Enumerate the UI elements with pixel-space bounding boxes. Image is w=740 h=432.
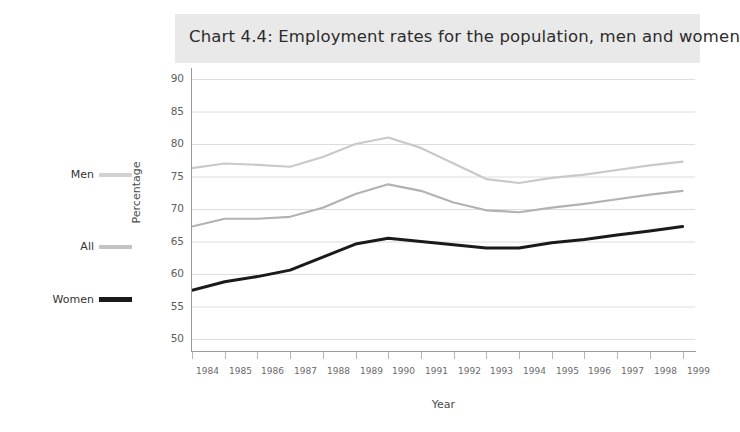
chart-title-band: Chart 4.4: Employment rates for the popu… bbox=[175, 14, 700, 63]
legend-item-men[interactable]: Men bbox=[0, 168, 140, 182]
x-axis-tick-mark bbox=[683, 352, 684, 359]
x-axis-tick-mark bbox=[519, 352, 520, 359]
x-axis-tick-label: 1996 bbox=[588, 366, 611, 376]
chart-legend: Men All Women bbox=[0, 0, 150, 432]
x-axis-tick-label: 1995 bbox=[556, 366, 579, 376]
series-line-all bbox=[192, 184, 683, 226]
y-axis-tick-labels: 505560657075808590 bbox=[148, 0, 184, 432]
data-series-group bbox=[192, 68, 695, 350]
y-axis-tick-label: 70 bbox=[150, 203, 184, 214]
x-axis-tick-mark bbox=[192, 352, 193, 359]
y-axis-title: Percentage bbox=[130, 162, 143, 224]
x-axis-tick-label: 1987 bbox=[294, 366, 317, 376]
x-axis-tick-label: 1988 bbox=[327, 366, 350, 376]
series-line-women bbox=[192, 227, 683, 291]
x-axis-tick-label: 1990 bbox=[392, 366, 415, 376]
legend-item-all[interactable]: All bbox=[0, 240, 140, 254]
y-axis-tick-label: 85 bbox=[150, 106, 184, 117]
legend-swatch-women bbox=[99, 297, 132, 302]
x-axis-tick-mark bbox=[486, 352, 487, 359]
legend-swatch-men bbox=[99, 173, 132, 177]
x-axis-tick-mark bbox=[290, 352, 291, 359]
page-title: Chart 4.4: Employment rates for the popu… bbox=[189, 27, 740, 46]
x-axis-tick-label: 1989 bbox=[360, 366, 383, 376]
x-axis-line bbox=[192, 351, 696, 352]
x-axis-tick-label: 1998 bbox=[654, 366, 677, 376]
x-axis-tick-mark bbox=[225, 352, 226, 359]
x-axis-tick-label: 1991 bbox=[425, 366, 448, 376]
series-line-men bbox=[192, 138, 683, 184]
legend-label-all: All bbox=[80, 240, 94, 253]
x-axis-tick-label: 1994 bbox=[523, 366, 546, 376]
x-axis-tick-mark bbox=[356, 352, 357, 359]
y-axis-tick-label: 50 bbox=[150, 333, 184, 344]
x-axis-tick-mark bbox=[584, 352, 585, 359]
y-axis-tick-label: 75 bbox=[150, 171, 184, 182]
y-axis-tick-label: 80 bbox=[150, 138, 184, 149]
x-axis-tick-mark bbox=[421, 352, 422, 359]
x-axis-tick-mark bbox=[454, 352, 455, 359]
x-axis-tick-mark bbox=[552, 352, 553, 359]
y-axis-line bbox=[191, 68, 192, 352]
y-axis-tick-label: 90 bbox=[150, 73, 184, 84]
legend-label-men: Men bbox=[71, 168, 94, 181]
y-axis-tick-label: 55 bbox=[150, 301, 184, 312]
x-axis-tick-mark bbox=[388, 352, 389, 359]
legend-item-women[interactable]: Women bbox=[0, 293, 140, 307]
x-axis-tick-label: 1985 bbox=[229, 366, 252, 376]
x-axis-tick-mark bbox=[323, 352, 324, 359]
x-axis-tick-label: 1993 bbox=[490, 366, 513, 376]
x-axis-tick-label: 1997 bbox=[621, 366, 644, 376]
x-axis-tick-mark bbox=[617, 352, 618, 359]
x-axis-title: Year bbox=[192, 398, 695, 411]
x-axis-tick-label: 1984 bbox=[196, 366, 219, 376]
x-axis-tick-mark bbox=[257, 352, 258, 359]
x-axis-tick-label: 1999 bbox=[687, 366, 710, 376]
y-axis-tick-label: 65 bbox=[150, 236, 184, 247]
x-axis-tick-label: 1986 bbox=[261, 366, 284, 376]
legend-label-women: Women bbox=[53, 293, 94, 306]
y-axis-tick-label: 60 bbox=[150, 268, 184, 279]
legend-swatch-all bbox=[99, 245, 132, 249]
plot-area bbox=[192, 68, 695, 350]
x-axis-tick-label: 1992 bbox=[458, 366, 481, 376]
x-axis-tick-mark bbox=[650, 352, 651, 359]
